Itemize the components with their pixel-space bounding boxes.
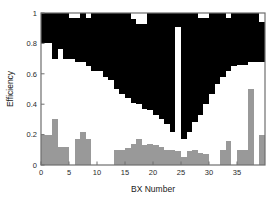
y-tick-label: 0.2 bbox=[27, 130, 37, 139]
y-tick-label: 1 bbox=[33, 9, 37, 18]
bar-segment bbox=[259, 135, 265, 165]
y-tick-label: 0.4 bbox=[27, 100, 37, 109]
bar-segment bbox=[41, 13, 47, 43]
bar-segment bbox=[131, 19, 137, 103]
bar-segment bbox=[63, 147, 69, 165]
bar-segment bbox=[103, 13, 109, 77]
y-tick-label: 0.8 bbox=[27, 39, 37, 48]
bar-segment bbox=[114, 13, 120, 89]
y-tick-label: 0.6 bbox=[27, 70, 37, 79]
bar-segment bbox=[259, 22, 265, 62]
bar-segment bbox=[170, 13, 176, 132]
bar-segment bbox=[52, 13, 58, 59]
bar-segment bbox=[192, 150, 198, 165]
bar-segment bbox=[136, 139, 142, 165]
bar-segment bbox=[63, 13, 69, 59]
bar-segment bbox=[237, 150, 243, 165]
x-tick-label: 35 bbox=[233, 168, 241, 177]
bar-segment bbox=[237, 13, 243, 65]
x-tick-label: 10 bbox=[93, 168, 101, 177]
bar-segment bbox=[41, 135, 47, 165]
bar-segment bbox=[170, 150, 176, 165]
bar-segment bbox=[243, 13, 249, 65]
bar-segment bbox=[153, 13, 159, 115]
bar-segment bbox=[226, 18, 232, 71]
bar-segment bbox=[203, 154, 209, 165]
x-tick-label: 30 bbox=[205, 168, 213, 177]
bar-segment bbox=[159, 147, 165, 165]
bar-segment bbox=[198, 153, 204, 165]
bar-segment bbox=[69, 18, 75, 59]
bar-segment bbox=[175, 13, 181, 27]
bar-segment bbox=[80, 13, 86, 62]
chart-figure: 00.20.40.60.81 05101520253035 Efficiency… bbox=[0, 0, 278, 206]
bar-segment bbox=[80, 132, 86, 165]
bar-segment bbox=[136, 24, 142, 105]
bar-segment bbox=[86, 18, 92, 67]
x-tick-label: 15 bbox=[121, 168, 129, 177]
x-tick-label: 5 bbox=[67, 168, 71, 177]
bar-segment bbox=[147, 144, 153, 165]
bar-segment bbox=[181, 13, 187, 139]
bar-segment bbox=[187, 13, 193, 132]
bar-segment bbox=[58, 13, 64, 49]
bar-segment bbox=[147, 13, 153, 110]
x-axis-title: BX Number bbox=[131, 184, 175, 194]
bar-segment bbox=[231, 13, 237, 66]
bar-segment bbox=[220, 13, 226, 77]
bar-segment bbox=[142, 145, 148, 165]
bar-segment bbox=[203, 18, 209, 105]
bar-segment bbox=[91, 13, 97, 71]
bar-segment bbox=[164, 150, 170, 165]
bar-segment bbox=[153, 145, 159, 165]
bar-segment bbox=[119, 150, 125, 165]
bar-segment bbox=[108, 13, 114, 80]
bar-segment bbox=[159, 13, 165, 119]
bar-segment bbox=[142, 24, 148, 109]
bar-segment bbox=[248, 13, 254, 62]
bar-segment bbox=[209, 13, 215, 94]
bar-segment bbox=[254, 13, 260, 62]
bar-segment bbox=[192, 13, 198, 122]
bar-segment bbox=[198, 18, 204, 115]
bar-segment bbox=[181, 157, 187, 165]
bar-segment bbox=[97, 13, 103, 71]
y-tick-label: 0 bbox=[33, 161, 37, 170]
bar-segment bbox=[58, 147, 64, 165]
bar-segment bbox=[75, 18, 81, 62]
bar-segment bbox=[226, 141, 232, 165]
bar-segment bbox=[131, 144, 137, 165]
bar-segment bbox=[125, 148, 131, 165]
bar-segment bbox=[187, 151, 193, 165]
bar-segment bbox=[75, 139, 81, 165]
x-tick-label: 25 bbox=[177, 168, 185, 177]
bar-segment bbox=[114, 150, 120, 165]
x-tick-label: 0 bbox=[39, 168, 43, 177]
bar-segment bbox=[215, 13, 221, 84]
bar-segment bbox=[47, 135, 53, 165]
y-axis-title: Efficiency bbox=[5, 70, 15, 107]
bar-segment bbox=[119, 13, 125, 94]
bar-segment bbox=[47, 13, 53, 43]
bar-segment bbox=[220, 150, 226, 165]
bar-segment bbox=[86, 139, 92, 165]
bar-segment bbox=[52, 119, 58, 165]
x-tick-label: 20 bbox=[149, 168, 157, 177]
efficiency-stacked-bar-chart: 00.20.40.60.81 05101520253035 Efficiency… bbox=[0, 0, 278, 206]
bar-segment bbox=[164, 13, 170, 124]
bar-segment bbox=[243, 150, 249, 165]
bar-segment bbox=[175, 151, 181, 165]
bar-segment bbox=[248, 89, 254, 165]
bar-segment bbox=[125, 13, 131, 98]
